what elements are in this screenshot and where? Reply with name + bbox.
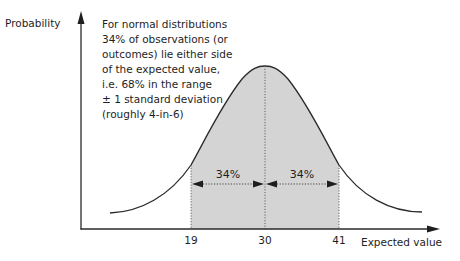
annotation-line: (roughly 4-in-6) [102, 107, 232, 122]
tick-label-30: 30 [258, 234, 271, 246]
annotation-line: ± 1 standard deviation [102, 92, 232, 107]
tick-label-19: 19 [184, 234, 197, 246]
annotation-line: i.e. 68% in the range [102, 77, 232, 92]
annotation-line: 34% of observations (or [102, 32, 232, 47]
annotation-line: outcomes) lie either side [102, 47, 232, 62]
interval-label-left: 34% [216, 168, 240, 181]
annotation-line: For normal distributions [102, 17, 232, 32]
x-axis-arrow-icon [427, 226, 440, 233]
interval-label-right: 34% [290, 168, 314, 181]
y-axis-arrow-icon [78, 11, 85, 24]
y-axis-label: Probability [5, 17, 61, 30]
tick-label-41: 41 [332, 234, 345, 246]
annotation-text: For normal distributions 34% of observat… [102, 17, 232, 122]
annotation-line: of the expected value, [102, 62, 232, 77]
x-axis-label: Expected value [361, 236, 442, 249]
